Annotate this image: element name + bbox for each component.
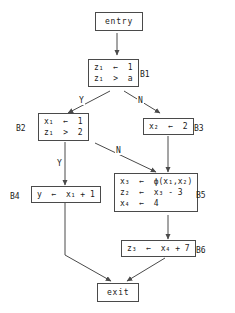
node-exit-label: exit — [107, 287, 129, 298]
node-b2[interactable]: x₁ ← 1 z₁ > 2 — [38, 113, 89, 141]
node-b4-stmt-0: y ← x₁ + 1 — [37, 189, 95, 200]
node-entry[interactable]: entry — [95, 12, 143, 31]
node-b5-stmt-0: x₃ ← ϕ(x₁,x₂) — [120, 176, 192, 187]
node-entry-label: entry — [105, 16, 133, 27]
node-b4[interactable]: y ← x₁ + 1 — [31, 186, 101, 203]
node-b2-stmt-0: x₁ ← 1 — [44, 116, 83, 127]
node-b1-stmt-0: z₁ ← 1 — [94, 62, 133, 73]
node-b5-stmt-1: z₂ ← x₃ - 3 — [120, 187, 192, 198]
edge-label-b2-no: N — [115, 146, 122, 155]
block-label-b6: B6 — [196, 246, 206, 256]
node-exit[interactable]: exit — [97, 283, 139, 302]
node-b1[interactable]: z₁ ← 1 z₁ > a — [88, 59, 139, 87]
edge-layer — [0, 0, 235, 313]
control-flow-graph: entry z₁ ← 1 z₁ > a B1 x₁ ← 1 z₁ > 2 B2 … — [0, 0, 235, 313]
block-label-b4: B4 — [10, 192, 20, 202]
edge-label-b2-yes: Y — [56, 159, 63, 168]
block-label-b3: B3 — [194, 124, 204, 134]
edge-label-b1-yes: Y — [78, 96, 85, 105]
node-b6[interactable]: z₃ ← x₄ + 7 — [121, 240, 196, 257]
block-label-b5: B5 — [196, 191, 206, 201]
node-b3[interactable]: x₂ ← 2 — [143, 118, 194, 135]
node-b2-stmt-1: z₁ > 2 — [44, 127, 83, 138]
node-b3-stmt-0: x₂ ← 2 — [149, 121, 188, 132]
node-b1-stmt-1: z₁ > a — [94, 73, 133, 84]
edge-label-b1-no: N — [137, 96, 144, 105]
edge-b1-b2 — [68, 91, 110, 113]
block-label-b2: B2 — [16, 124, 26, 134]
node-b6-stmt-0: z₃ ← x₄ + 7 — [127, 243, 190, 254]
node-b5-stmt-2: x₄ ← 4 — [120, 198, 192, 209]
edge-b4-exit — [65, 200, 111, 281]
edge-b6-exit — [127, 258, 165, 281]
node-b5[interactable]: x₃ ← ϕ(x₁,x₂) z₂ ← x₃ - 3 x₄ ← 4 — [114, 173, 198, 212]
edge-b2-b5 — [95, 143, 156, 172]
block-label-b1: B1 — [140, 70, 150, 80]
